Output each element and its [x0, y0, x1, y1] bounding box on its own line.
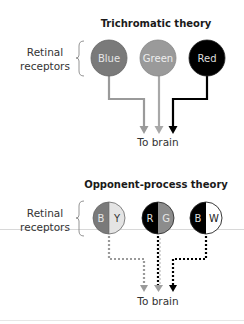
arrowhead-icon — [169, 126, 178, 134]
opponent-process-diagram: Opponent-process theory Retinal receptor… — [20, 179, 228, 307]
receptor-right-label: G — [162, 213, 170, 224]
retinal-receptors-label-line1: Retinal — [27, 46, 63, 58]
receptor-green: Green — [140, 40, 176, 76]
arrowhead-icon — [154, 285, 163, 292]
opponent-process-title: Opponent-process theory — [84, 179, 228, 190]
by-pathway-dotted-line — [109, 236, 144, 286]
to-brain-label: To brain — [136, 295, 178, 307]
receptor-label: Red — [198, 53, 217, 64]
receptor-label: Blue — [98, 53, 120, 64]
receptor-black-white: B W — [190, 202, 222, 234]
bw-pathway-dotted-line — [173, 236, 206, 286]
retinal-receptors-label-line2: receptors — [20, 221, 70, 233]
arrowhead-icon — [140, 285, 148, 292]
receptor-right-label: Y — [113, 213, 121, 224]
receptor-left-label: B — [195, 213, 202, 224]
receptor-right-label: W — [209, 213, 219, 224]
curly-brace-icon — [76, 41, 84, 76]
retinal-receptors-label-line1: Retinal — [27, 207, 63, 219]
color-vision-diagram: Trichromatic theory Retinal receptors Bl… — [0, 0, 244, 324]
trichromatic-title: Trichromatic theory — [101, 18, 212, 29]
to-brain-label: To brain — [136, 136, 178, 148]
receptor-blue: Blue — [91, 40, 127, 76]
red-pathway-line — [173, 73, 207, 127]
arrowhead-icon — [169, 285, 177, 292]
receptor-left-label: B — [98, 213, 105, 224]
arrowhead-icon — [155, 126, 164, 134]
blue-pathway-line — [109, 73, 144, 127]
trichromatic-diagram: Trichromatic theory Retinal receptors Bl… — [20, 18, 225, 148]
receptor-label: Green — [143, 53, 173, 64]
receptor-blue-yellow: B Y — [93, 202, 125, 234]
receptor-red: Red — [189, 40, 225, 76]
retinal-receptors-label-line2: receptors — [20, 60, 70, 72]
receptor-red-green: R G — [142, 202, 174, 234]
arrowhead-icon — [140, 126, 149, 134]
curly-brace-icon — [76, 201, 84, 236]
receptor-left-label: R — [147, 213, 154, 224]
